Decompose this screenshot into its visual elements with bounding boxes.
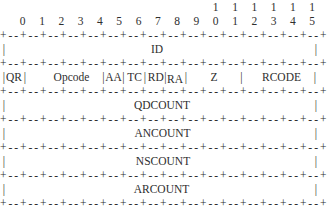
bit-number-tens: 1 [271, 0, 277, 14]
bit-number: 4 [97, 14, 103, 28]
bit-number: 5 [309, 14, 315, 28]
bit-number: 0 [20, 14, 26, 28]
field-row-id: |ID| [0, 42, 327, 56]
field-separator-bar: | [3, 154, 5, 168]
bit-ruler-units-row: 0123456789012345 [0, 14, 327, 28]
separator-row: +--+--+--+--+--+--+--+--+--+--+--+--+--+… [0, 112, 327, 126]
field-label-tc: TC [127, 70, 142, 84]
field-separator-bar: | [122, 70, 124, 84]
field-separator-bar: | [315, 98, 317, 112]
bit-number: 4 [290, 14, 296, 28]
bit-number: 8 [174, 14, 180, 28]
field-separator-bar: | [144, 70, 146, 84]
field-separator-bar: | [314, 70, 316, 84]
field-label-rcode: RCODE [262, 70, 301, 84]
bit-number: 7 [155, 14, 161, 28]
bit-ruler-tens-row: 111111 [0, 0, 327, 14]
bit-number: 3 [271, 14, 277, 28]
field-label-id: ID [151, 42, 163, 56]
field-row-ancount: |ANCOUNT| [0, 126, 327, 140]
bit-number: 1 [39, 14, 45, 28]
field-separator-bar: | [315, 126, 317, 140]
bit-number: 9 [194, 14, 200, 28]
bit-number: 2 [251, 14, 257, 28]
separator-row: +--+--+--+--+--+--+--+--+--+--+--+--+--+… [0, 140, 327, 154]
field-label-z: Z [210, 70, 217, 84]
bit-number: 0 [213, 14, 219, 28]
field-separator-bar: | [185, 70, 187, 84]
field-separator-bar: | [3, 70, 5, 84]
separator-row: +--+--+--+--+--+--+--+--+--+--+--+--+--+… [0, 84, 327, 98]
bit-number: 1 [232, 14, 238, 28]
field-separator-bar: | [3, 182, 5, 196]
bit-number: 2 [58, 14, 64, 28]
dns-header-diagram: 1111110123456789012345+--+--+--+--+--+--… [0, 0, 327, 211]
bit-number-tens: 1 [290, 0, 296, 14]
field-label-qr: QR [6, 70, 22, 84]
field-label-ancount: ANCOUNT [134, 126, 190, 140]
field-separator-bar: | [315, 182, 317, 196]
bit-number: 3 [78, 14, 84, 28]
separator-row: +--+--+--+--+--+--+--+--+--+--+--+--+--+… [0, 28, 327, 42]
bit-number-tens: 1 [309, 0, 315, 14]
field-row-flags: |||||||||QROpcodeAATCRDRAZRCODE [0, 70, 327, 84]
field-row-nscount: |NSCOUNT| [0, 154, 327, 168]
field-label-arcount: ARCOUNT [134, 182, 190, 196]
field-separator-bar: | [24, 70, 26, 84]
separator-row: +--+--+--+--+--+--+--+--+--+--+--+--+--+… [0, 196, 327, 210]
field-separator-bar: | [315, 42, 317, 56]
field-separator-bar: | [240, 70, 242, 84]
field-label-aa: AA [105, 70, 122, 84]
field-separator-bar: | [315, 154, 317, 168]
field-label-rd: RD [148, 70, 164, 84]
field-separator-bar: | [3, 126, 5, 140]
bit-number: 6 [136, 14, 142, 28]
field-separator-bar: | [3, 42, 5, 56]
bit-number-tens: 1 [232, 0, 238, 14]
field-label-qdcount: QDCOUNT [134, 98, 190, 112]
bit-number-tens: 1 [213, 0, 219, 14]
field-label-opcode: Opcode [54, 70, 90, 84]
field-row-qdcount: |QDCOUNT| [0, 98, 327, 112]
field-label-nscount: NSCOUNT [136, 154, 190, 168]
bit-number: 5 [116, 14, 122, 28]
separator-row: +--+--+--+--+--+--+--+--+--+--+--+--+--+… [0, 56, 327, 70]
field-separator-bar: | [3, 98, 5, 112]
separator-row: +--+--+--+--+--+--+--+--+--+--+--+--+--+… [0, 168, 327, 182]
bit-number-tens: 1 [251, 0, 257, 14]
field-row-arcount: |ARCOUNT| [0, 182, 327, 196]
